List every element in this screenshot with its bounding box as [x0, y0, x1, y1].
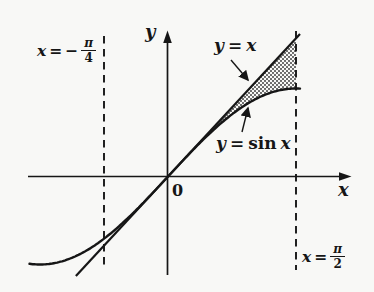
right-boundary-fraction: π 2: [330, 243, 345, 270]
left-boundary-minus: −: [65, 42, 78, 59]
right-boundary-denominator: 2: [333, 257, 341, 270]
right-boundary-label: x = π 2: [302, 243, 345, 270]
left-boundary-numerator: π: [81, 37, 96, 51]
left-boundary-eq: =: [49, 42, 62, 59]
figure-canvas: y x 0 y = x y = sin x x = − π 4 x = π 2: [0, 0, 374, 292]
right-boundary-lhs: x: [302, 248, 311, 265]
right-boundary-eq: =: [314, 248, 327, 265]
left-boundary-label: x = − π 4: [37, 37, 96, 64]
x-axis-label: x: [338, 180, 349, 200]
right-boundary-numerator: π: [330, 243, 345, 257]
sin-eq-func: sin: [248, 134, 276, 153]
left-boundary-denominator: 4: [84, 51, 92, 64]
y-axis-arrow-icon: [163, 31, 172, 44]
sin-equation-label: y = sin x: [216, 134, 291, 153]
sin-eq-sign: =: [230, 134, 244, 153]
line-equation-label: y = x: [214, 36, 256, 55]
sin-eq-lhs: y: [216, 134, 226, 153]
sin-label-arrow-icon: [242, 108, 248, 132]
line-eq-lhs: y: [214, 36, 224, 55]
line-label-arrow-icon: [231, 60, 248, 80]
origin-label: 0: [172, 182, 183, 200]
left-boundary-lhs: x: [37, 42, 46, 59]
line-eq-sign: =: [228, 36, 242, 55]
y-axis-label: y: [145, 22, 155, 42]
left-boundary-fraction: π 4: [81, 37, 96, 64]
sin-eq-arg: x: [281, 134, 291, 153]
line-eq-rhs: x: [246, 36, 256, 55]
